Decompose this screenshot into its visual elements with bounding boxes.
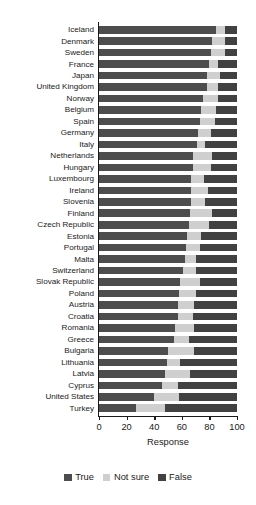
bar-segment-false bbox=[209, 221, 237, 229]
y-axis-label-romania: Romania bbox=[0, 323, 94, 332]
table-row bbox=[99, 60, 237, 68]
bar-segment-false bbox=[205, 141, 237, 149]
bar-segment-true bbox=[99, 26, 216, 34]
bar-segment-true bbox=[99, 198, 191, 206]
x-tick-label-40: 40 bbox=[139, 422, 169, 433]
bar-segment-not-sure bbox=[174, 336, 189, 344]
table-row bbox=[99, 255, 237, 263]
bar-segment-not-sure bbox=[178, 301, 195, 309]
bar-segment-false bbox=[225, 37, 237, 45]
bar-segment-false bbox=[193, 313, 237, 321]
bar-segment-true bbox=[99, 141, 197, 149]
table-row bbox=[99, 404, 237, 412]
legend-swatch-icon bbox=[158, 474, 166, 482]
y-axis-label-japan: Japan bbox=[0, 71, 94, 80]
bar-segment-true bbox=[99, 301, 178, 309]
plot-area bbox=[99, 24, 237, 414]
x-tick-80 bbox=[209, 416, 210, 420]
table-row bbox=[99, 49, 237, 57]
bar-segment-not-sure bbox=[167, 359, 181, 367]
bar-segment-true bbox=[99, 37, 212, 45]
table-row bbox=[99, 152, 237, 160]
bar-segment-false bbox=[211, 129, 237, 137]
table-row bbox=[99, 244, 237, 252]
bar-segment-false bbox=[196, 267, 237, 275]
bar-segment-true bbox=[99, 404, 136, 412]
stacked-bar-rows bbox=[99, 24, 237, 414]
x-axis-line bbox=[98, 416, 238, 417]
bar-segment-false bbox=[194, 324, 237, 332]
y-axis-label-italy: Italy bbox=[0, 140, 94, 149]
bar-segment-true bbox=[99, 255, 185, 263]
bar-segment-not-sure bbox=[187, 232, 201, 240]
legend-item-not-sure: Not sure bbox=[103, 472, 149, 483]
table-row bbox=[99, 359, 237, 367]
bar-segment-false bbox=[225, 26, 237, 34]
y-axis-label-germany: Germany bbox=[0, 128, 94, 137]
y-axis-label-norway: Norway bbox=[0, 94, 94, 103]
bar-segment-not-sure bbox=[190, 209, 212, 217]
y-axis-label-estonia: Estonia bbox=[0, 232, 94, 241]
table-row bbox=[99, 313, 237, 321]
y-axis-label-finland: Finland bbox=[0, 209, 94, 218]
legend-swatch-icon bbox=[103, 474, 111, 482]
bar-segment-true bbox=[99, 267, 183, 275]
bar-segment-true bbox=[99, 164, 193, 172]
table-row bbox=[99, 83, 237, 91]
bar-segment-not-sure bbox=[212, 37, 224, 45]
bar-segment-not-sure bbox=[193, 164, 211, 172]
x-tick-60 bbox=[182, 416, 183, 420]
x-tick-label-20: 20 bbox=[112, 422, 142, 433]
bar-segment-not-sure bbox=[191, 175, 203, 183]
table-row bbox=[99, 129, 237, 137]
y-axis-label-iceland: Iceland bbox=[0, 25, 94, 34]
table-row bbox=[99, 290, 237, 298]
x-tick-40 bbox=[154, 416, 155, 420]
x-axis-title: Response bbox=[99, 437, 237, 448]
bar-segment-false bbox=[200, 278, 237, 286]
y-axis-label-latvia: Latvia bbox=[0, 369, 94, 378]
bar-segment-true bbox=[99, 382, 162, 390]
bar-segment-false bbox=[196, 290, 237, 298]
x-tick-0 bbox=[99, 416, 100, 420]
table-row bbox=[99, 209, 237, 217]
legend-label: Not sure bbox=[114, 472, 149, 483]
table-row bbox=[99, 347, 237, 355]
y-axis-label-bulgaria: Bulgaria bbox=[0, 346, 94, 355]
table-row bbox=[99, 26, 237, 34]
table-row bbox=[99, 370, 237, 378]
x-tick-label-60: 60 bbox=[167, 422, 197, 433]
bar-segment-not-sure bbox=[162, 382, 177, 390]
y-axis-category-labels: IcelandDenmarkSwedenFranceJapanUnited Ki… bbox=[0, 24, 94, 414]
bar-segment-true bbox=[99, 187, 191, 195]
bar-segment-true bbox=[99, 118, 200, 126]
bar-segment-true bbox=[99, 393, 154, 401]
bar-segment-not-sure bbox=[207, 83, 218, 91]
bar-segment-false bbox=[225, 49, 237, 57]
y-axis-label-sweden: Sweden bbox=[0, 48, 94, 57]
bar-segment-true bbox=[99, 152, 193, 160]
table-row bbox=[99, 141, 237, 149]
y-axis-label-hungary: Hungary bbox=[0, 163, 94, 172]
bar-segment-true bbox=[99, 106, 201, 114]
bar-segment-not-sure bbox=[165, 370, 190, 378]
bar-segment-not-sure bbox=[203, 95, 218, 103]
bar-segment-false bbox=[220, 72, 237, 80]
bar-segment-true bbox=[99, 60, 209, 68]
bar-segment-false bbox=[218, 60, 237, 68]
bar-segment-false bbox=[212, 209, 237, 217]
y-axis-label-croatia: Croatia bbox=[0, 312, 94, 321]
table-row bbox=[99, 106, 237, 114]
bar-segment-false bbox=[179, 393, 237, 401]
legend-label: False bbox=[169, 472, 192, 483]
x-tick-100 bbox=[237, 416, 238, 420]
bar-segment-not-sure bbox=[189, 221, 210, 229]
bar-segment-false bbox=[178, 382, 237, 390]
table-row bbox=[99, 336, 237, 344]
legend-item-false: False bbox=[158, 472, 192, 483]
bar-segment-not-sure bbox=[178, 313, 193, 321]
y-axis-label-luxembourg: Luxembourg bbox=[0, 174, 94, 183]
bar-segment-not-sure bbox=[198, 129, 210, 137]
y-axis-label-malta: Malta bbox=[0, 255, 94, 264]
bar-segment-false bbox=[218, 95, 237, 103]
